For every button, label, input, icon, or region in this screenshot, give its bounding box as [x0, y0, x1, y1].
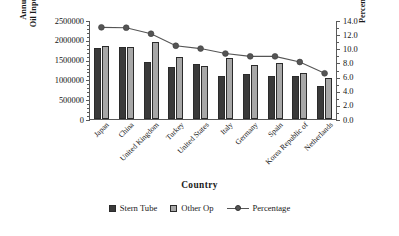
legend-item-other-op: Other Op: [170, 203, 213, 213]
y-axis-right-tick-label: 12.0: [343, 31, 358, 40]
percentage-data-point: [123, 25, 129, 31]
x-axis-category-label: Italy: [220, 121, 236, 137]
percentage-data-point: [99, 24, 105, 30]
legend-line-dot-icon-percentage: [227, 204, 249, 212]
y-axis-right-tick-label: 4.0: [343, 87, 353, 96]
y-axis-left-tick-label: 500000: [59, 96, 84, 105]
y-axis-left-tick-label: 1500000: [55, 56, 84, 65]
chart-legend: Stern Tube Other Op Percentage: [0, 203, 399, 213]
legend-swatch-icon-stern-tube: [109, 205, 116, 212]
percentage-data-point: [322, 70, 328, 76]
y-axis-left-title-line2: Oil Input (Litres): [29, 0, 40, 27]
percentage-data-point: [173, 43, 179, 49]
x-axis-category-label: Japan: [93, 121, 111, 139]
percentage-data-point: [223, 51, 229, 57]
percentage-data-point: [198, 46, 204, 52]
y-axis-right-tick-label: 14.0: [343, 17, 358, 26]
chart-container: Annual Lube Oil Input (Litres) Percentag…: [0, 0, 399, 236]
percentage-data-point: [247, 53, 253, 59]
y-axis-left-title-line1: Annual Lube: [19, 0, 30, 20]
legend-line-marker: [235, 205, 241, 211]
legend-swatch-icon-other-op: [170, 205, 177, 212]
percentage-line-path: [101, 27, 324, 73]
legend-label-other-op: Other Op: [181, 203, 213, 213]
y-axis-right-tick-label: 0.0: [343, 116, 353, 125]
percentage-data-point: [272, 53, 278, 59]
percentage-data-point: [148, 31, 154, 37]
y-axis-right-tick-label: 10.0: [343, 45, 358, 54]
legend-item-stern-tube: Stern Tube: [109, 203, 158, 213]
plot-area: 05000001000000150000020000002500000 0.02…: [89, 21, 337, 120]
x-axis-category-label: Turkey: [164, 121, 185, 142]
legend-label-stern-tube: Stern Tube: [120, 203, 158, 213]
y-axis-left-tick-label: 1000000: [55, 76, 84, 85]
percentage-data-point: [297, 59, 303, 65]
y-axis-left-tick-label: 2000000: [55, 36, 84, 45]
x-axis-category-labels: JapanChinaUnited KingdomTurkeyUnited Sta…: [89, 121, 337, 179]
y-axis-left-title: Annual Lube Oil Input (Litres): [14, 0, 44, 48]
y-axis-right-tick-label: 8.0: [343, 59, 353, 68]
legend-label-percentage: Percentage: [253, 203, 291, 213]
x-axis-title: Country: [0, 180, 399, 190]
percentage-line-markers: [99, 24, 328, 76]
x-axis-category-label: Spain: [267, 121, 285, 139]
legend-item-percentage: Percentage: [227, 203, 291, 213]
y-axis-left-tick-label: 0: [80, 116, 84, 125]
y-axis-right-tick-label: 6.0: [343, 73, 353, 82]
x-axis-category-label: Germany: [234, 121, 260, 147]
x-axis-category-label: China: [117, 121, 135, 139]
y-axis-right-tick-label: 2.0: [343, 101, 353, 110]
percentage-line-series: [89, 21, 337, 120]
y-axis-left-tick-label: 2500000: [55, 17, 84, 26]
